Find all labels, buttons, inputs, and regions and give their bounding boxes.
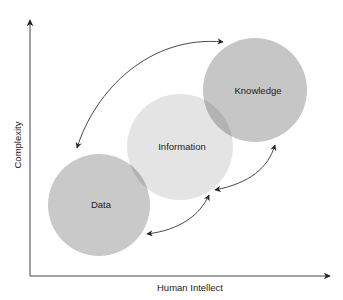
y-axis-label: Complexity (12, 121, 23, 168)
information-label: Information (158, 141, 206, 152)
data-label: Data (91, 199, 112, 210)
arrow-data-information (147, 195, 209, 234)
diagram-canvas: Data Information Knowledge Human Intelle… (0, 0, 343, 300)
x-axis-label: Human Intellect (157, 282, 223, 293)
knowledge-label: Knowledge (234, 85, 281, 96)
